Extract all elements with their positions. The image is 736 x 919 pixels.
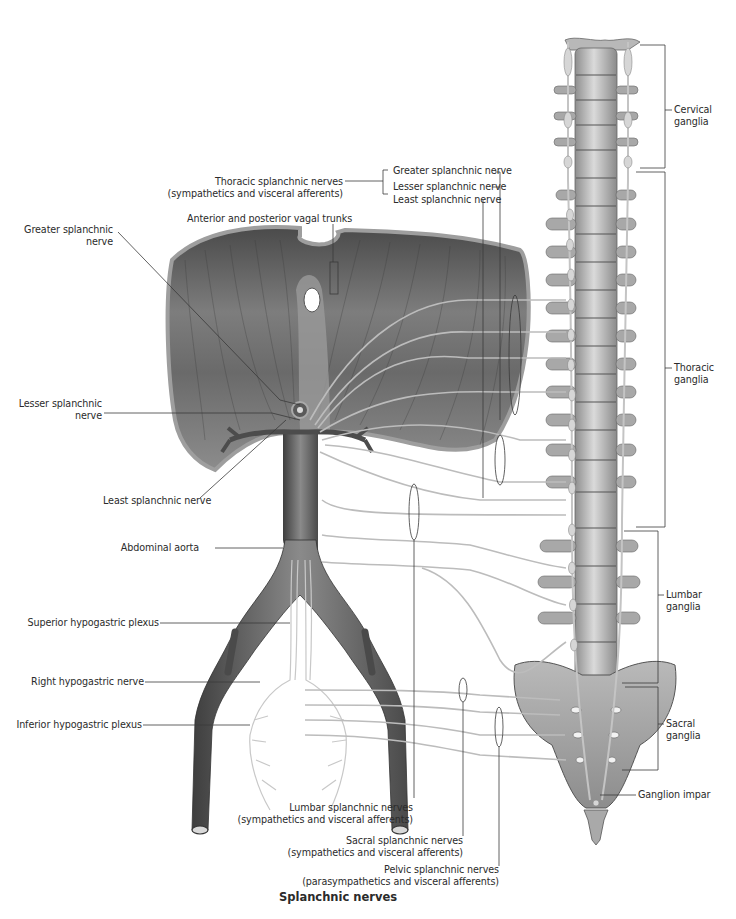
label-least-splanchnic-nerve-top: Least splanchnic nerve [393, 194, 501, 206]
label-lesser-splanchnic-nerve-top: Lesser splanchnic nerve [393, 181, 506, 193]
label-vagal-trunks: Anterior and posterior vagal trunks [187, 213, 352, 225]
splanchnic-nerves-figure: Thoracic splanchnic nerves (sympathetics… [0, 0, 736, 919]
label-lumbar-splanchnic-nerves: Lumbar splanchnic nerves (sympathetics a… [238, 802, 413, 826]
label-lesser-splanchnic-nerve-left: Lesser splanchnic nerve [19, 398, 102, 422]
label-inferior-hypogastric-plexus: Inferior hypogastric plexus [16, 719, 142, 731]
label-right-hypogastric-nerve: Right hypogastric nerve [31, 676, 144, 688]
label-pelvic-splanchnic-nerves: Pelvic splanchnic nerves (parasympatheti… [302, 864, 499, 888]
diaphragm [168, 227, 529, 552]
label-least-splanchnic-nerve-left: Least splanchnic nerve [103, 495, 211, 507]
vertebral-column [514, 38, 676, 845]
label-sacral-splanchnic-nerves: Sacral splanchnic nerves (sympathetics a… [288, 835, 463, 859]
label-thoracic-splanchnic-nerves: Thoracic splanchnic nerves (sympathetics… [168, 176, 343, 200]
label-abdominal-aorta: Abdominal aorta [121, 542, 199, 554]
label-greater-splanchnic-nerve-top: Greater splanchnic nerve [393, 165, 512, 177]
label-greater-splanchnic-nerve-left: Greater splanchnic nerve [24, 224, 113, 248]
label-ganglion-impar: Ganglion impar [638, 789, 710, 801]
abdominal-aorta-and-iliac-arteries [192, 540, 408, 834]
label-cervical-ganglia: Cervical ganglia [674, 104, 712, 128]
label-lumbar-ganglia: Lumbar ganglia [666, 589, 702, 613]
label-sacral-ganglia: Sacral ganglia [666, 718, 701, 742]
label-thoracic-ganglia: Thoracic ganglia [674, 362, 714, 386]
anatomy-illustration [0, 0, 736, 919]
label-superior-hypogastric-plexus: Superior hypogastric plexus [27, 617, 159, 629]
figure-title: Splanchnic nerves [0, 890, 706, 904]
